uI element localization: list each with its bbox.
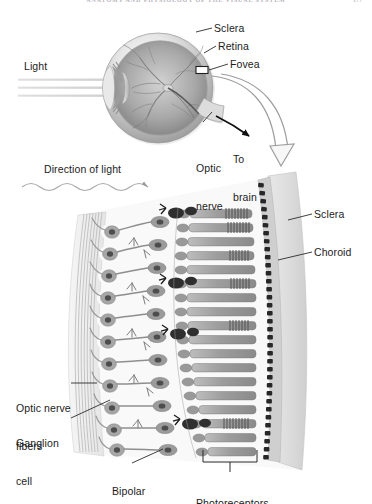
label-to-brain-line2: brain <box>233 191 257 204</box>
label-bipolar-cell: Bipolar cell <box>112 460 145 504</box>
retina-block <box>68 172 306 470</box>
eyeball <box>103 33 225 145</box>
label-photoreceptors: Photoreceptors (rods and cones) <box>196 472 276 504</box>
label-sclera-retina: Sclera <box>314 208 344 221</box>
direction-of-light-arrow <box>22 184 148 191</box>
cornea <box>103 66 115 110</box>
label-light: Light <box>24 60 47 73</box>
label-bipolar-cell-line1: Bipolar <box>112 485 145 498</box>
label-choroid: Choroid <box>314 246 351 259</box>
label-to-brain-line1: To <box>233 153 257 166</box>
label-ganglion-cell: Ganglion cell <box>16 412 59 504</box>
label-optic-nerve: Optic nerve <box>196 137 223 237</box>
label-retina: Retina <box>218 40 249 53</box>
label-photoreceptors-line1: Photoreceptors <box>196 497 276 504</box>
label-optic-nerve-line1: Optic <box>196 162 223 175</box>
label-optic-nerve-line2: nerve <box>196 200 223 213</box>
label-direction-of-light: Direction of light <box>44 163 121 176</box>
label-sclera-eye: Sclera <box>214 22 244 35</box>
arrowhead-to-magnified-view <box>270 144 294 166</box>
label-ganglion-cell-line1: Ganglion <box>16 437 59 450</box>
label-to-brain: To brain <box>233 128 257 228</box>
leader-sclera-eye <box>196 28 212 32</box>
label-ganglion-cell-line2: cell <box>16 475 59 488</box>
fovea-marker-box <box>196 67 208 74</box>
leader-retina <box>204 46 216 53</box>
label-fovea: Fovea <box>230 58 260 71</box>
leader-fovea <box>209 64 228 70</box>
figure-container: ANATOMY AND PHYSIOLOGY OF THE VISUAL SYS… <box>0 0 372 504</box>
